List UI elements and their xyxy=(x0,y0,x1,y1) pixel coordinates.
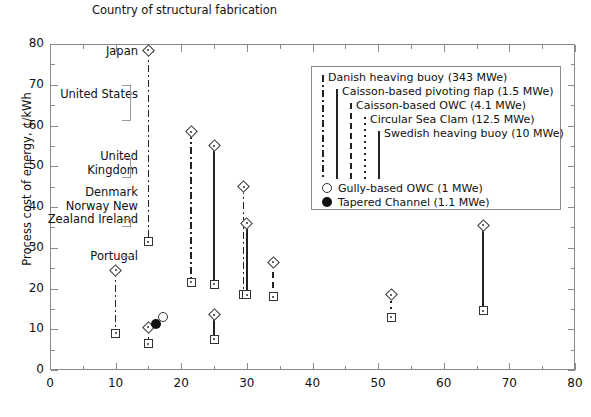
high-value-marker-dot xyxy=(243,186,245,188)
high-value-marker-dot xyxy=(190,131,192,133)
range-line xyxy=(482,225,484,311)
range-line xyxy=(246,223,248,294)
legend-line-label[interactable]: Circular Sea Clam (12.5 MWe) xyxy=(370,113,535,126)
y-tick-label: 20 xyxy=(18,281,44,295)
axis-tick xyxy=(51,64,55,65)
axis-tick xyxy=(568,289,575,290)
axis-tick xyxy=(444,45,445,52)
y-tick-label: 0 xyxy=(18,362,44,376)
axis-tick xyxy=(568,329,575,330)
axis-tick xyxy=(568,370,575,371)
axis-tick xyxy=(345,45,346,49)
axis-tick xyxy=(148,366,149,370)
axis-tick xyxy=(83,366,84,370)
axis-tick xyxy=(571,227,575,228)
y-tick-label: 10 xyxy=(18,321,44,335)
axis-tick xyxy=(378,45,379,52)
axis-tick xyxy=(571,350,575,351)
axis-tick xyxy=(411,45,412,49)
axis-tick xyxy=(345,366,346,370)
axis-tick xyxy=(50,45,51,52)
axis-tick xyxy=(51,44,58,45)
low-value-marker-dot xyxy=(272,296,274,298)
axis-tick xyxy=(51,248,58,249)
high-value-marker-dot xyxy=(390,294,392,296)
legend-filled-circle-icon xyxy=(322,197,332,207)
high-value-marker-dot xyxy=(115,269,117,271)
x-tick-label: 0 xyxy=(35,376,65,390)
range-line xyxy=(213,146,215,285)
axis-tick xyxy=(411,366,412,370)
legend-line-sample xyxy=(336,89,338,179)
range-line xyxy=(243,187,245,295)
legend-line-sample xyxy=(378,131,380,179)
axis-tick xyxy=(542,45,543,49)
axis-tick xyxy=(116,363,117,370)
legend-line-label[interactable]: Danish heaving buoy (343 MWe) xyxy=(328,71,507,84)
x-tick-label: 10 xyxy=(101,376,131,390)
axis-tick xyxy=(181,45,182,52)
axis-tick xyxy=(51,350,55,351)
axis-tick xyxy=(313,363,314,370)
axis-tick xyxy=(51,105,55,106)
range-line xyxy=(115,270,117,333)
country-bracket xyxy=(122,219,131,227)
axis-tick xyxy=(247,363,248,370)
x-tick-label: 40 xyxy=(298,376,328,390)
legend-box[interactable]: Danish heaving buoy (343 MWe)Caisson-bas… xyxy=(311,66,561,210)
axis-tick xyxy=(571,146,575,147)
axis-tick xyxy=(280,366,281,370)
axis-tick xyxy=(571,309,575,310)
range-line xyxy=(190,132,192,283)
axis-tick xyxy=(51,146,55,147)
x-tick-label: 50 xyxy=(363,376,393,390)
legend-marker-label[interactable]: Tapered Channel (1.1 MWe) xyxy=(338,196,490,209)
high-value-marker-dot xyxy=(213,145,215,147)
axis-tick xyxy=(51,227,55,228)
axis-tick xyxy=(568,207,575,208)
chart-figure: Country of structural fabrication Proces… xyxy=(0,0,591,417)
axis-tick xyxy=(571,64,575,65)
legend-open-circle-icon xyxy=(322,183,332,193)
country-bracket xyxy=(122,85,131,122)
y-tick-label: 40 xyxy=(18,199,44,213)
axis-tick xyxy=(542,366,543,370)
legend-line-label[interactable]: Swedish heaving buoy (10 MWe) xyxy=(384,127,564,140)
axis-tick xyxy=(51,268,55,269)
legend-line-sample xyxy=(364,117,366,179)
country-leader-line xyxy=(122,256,132,257)
y-tick-label: 50 xyxy=(18,158,44,172)
y-tick-label: 70 xyxy=(18,77,44,91)
legend-line-sample xyxy=(322,75,324,179)
axis-tick xyxy=(313,45,314,52)
axis-tick xyxy=(51,289,58,290)
axis-tick xyxy=(509,363,510,370)
axis-tick xyxy=(568,166,575,167)
axis-tick xyxy=(568,85,575,86)
y-tick-label: 60 xyxy=(18,118,44,132)
axis-tick xyxy=(181,363,182,370)
legend-marker-label[interactable]: Gully-based OWC (1 MWe) xyxy=(338,182,483,195)
axis-tick xyxy=(444,363,445,370)
legend-line-label[interactable]: Caisson-based pivoting flap (1.5 MWe) xyxy=(342,85,554,98)
x-tick-label: 60 xyxy=(429,376,459,390)
y-tick-label: 80 xyxy=(18,36,44,50)
legend-line-sample xyxy=(350,103,352,179)
axis-tick xyxy=(247,45,248,52)
tapered-channel-marker xyxy=(151,319,161,329)
y-tick-label: 30 xyxy=(18,240,44,254)
axis-tick xyxy=(214,45,215,49)
axis-tick xyxy=(280,45,281,49)
axis-tick xyxy=(378,363,379,370)
x-tick-label: 30 xyxy=(232,376,262,390)
axis-tick xyxy=(571,268,575,269)
axis-tick xyxy=(214,366,215,370)
axis-tick xyxy=(571,187,575,188)
axis-tick xyxy=(509,45,510,52)
axis-tick xyxy=(51,126,58,127)
axis-tick xyxy=(51,370,58,371)
x-tick-label: 20 xyxy=(166,376,196,390)
legend-line-label[interactable]: Caisson-based OWC (4.1 MWe) xyxy=(356,99,526,112)
axis-tick xyxy=(571,105,575,106)
axis-tick xyxy=(477,45,478,49)
